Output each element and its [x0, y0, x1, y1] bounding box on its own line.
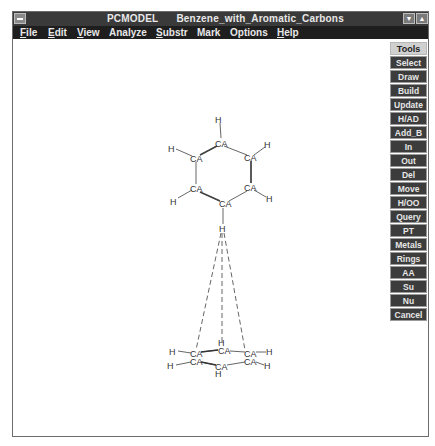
atom-h[interactable]: H: [215, 369, 222, 379]
atom-h[interactable]: H: [215, 115, 222, 125]
atom-ca[interactable]: CA: [190, 357, 203, 367]
atom-ca[interactable]: CA: [219, 199, 232, 209]
atom-h[interactable]: H: [264, 361, 271, 371]
atom-ca[interactable]: CA: [190, 184, 203, 194]
atom-h[interactable]: H: [264, 140, 271, 150]
atom-h[interactable]: H: [266, 347, 273, 357]
atom-h[interactable]: H: [170, 197, 177, 207]
atom-ca[interactable]: CA: [218, 346, 231, 356]
atom-h[interactable]: H: [169, 347, 176, 357]
atom-ca[interactable]: CA: [244, 357, 257, 367]
atom-ca[interactable]: CA: [215, 139, 228, 149]
atom-h[interactable]: H: [167, 361, 174, 371]
molecule-drawing: H CA H CA CA H CA H CA H CA H H CA H CA …: [0, 0, 435, 446]
atom-ca[interactable]: CA: [244, 183, 257, 193]
atom-h-pointer[interactable]: H: [219, 224, 226, 234]
atom-ca[interactable]: CA: [244, 153, 257, 163]
bottom-ring-atoms: H CA H CA CA H H CA CA H CA H: [167, 338, 273, 379]
interaction-dashed-lines: [196, 233, 245, 350]
atom-ca[interactable]: CA: [190, 154, 203, 164]
atom-h[interactable]: H: [266, 194, 273, 204]
atom-h[interactable]: H: [168, 144, 175, 154]
